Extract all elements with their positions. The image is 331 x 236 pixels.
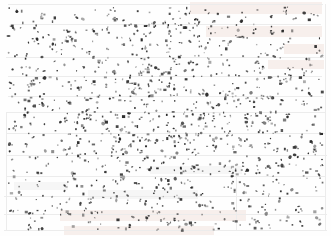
ghost-horizontal-rule — [6, 155, 327, 156]
ghost-horizontal-rule — [4, 196, 326, 197]
ghost-text-block — [268, 60, 324, 69]
ghost-text-block — [60, 210, 246, 221]
ghost-text-block — [150, 166, 242, 174]
ghost-text-block — [284, 44, 324, 54]
ghost-horizontal-rule — [4, 230, 327, 231]
ghost-horizontal-rule — [8, 76, 322, 77]
ghost-vertical-rule — [6, 112, 7, 230]
ghost-text-block — [88, 190, 198, 199]
ghost-horizontal-rule — [6, 176, 326, 177]
ghost-horizontal-rule — [10, 24, 321, 25]
ghost-horizontal-rule — [6, 133, 326, 134]
ghost-horizontal-rule — [8, 4, 323, 5]
ghost-text-block — [14, 182, 68, 190]
scanned-document-canvas — [0, 0, 331, 236]
ghost-horizontal-rule — [6, 57, 324, 58]
ghost-horizontal-rule — [8, 96, 323, 97]
ghost-horizontal-rule — [6, 112, 326, 113]
ghost-horizontal-rule — [4, 214, 327, 215]
ghost-text-block — [206, 26, 322, 37]
ghost-vertical-rule — [325, 4, 326, 230]
ghost-vertical-rule — [236, 176, 237, 230]
